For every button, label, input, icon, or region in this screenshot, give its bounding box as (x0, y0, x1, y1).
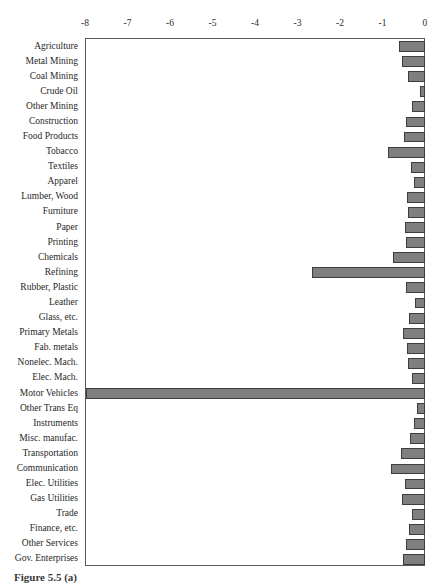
category-label: Communication (17, 463, 78, 473)
x-tick-label: -1 (378, 18, 386, 28)
category-label: Chemicals (38, 252, 78, 262)
bar (408, 71, 425, 82)
bar (415, 298, 425, 309)
bar (402, 56, 425, 67)
bar (411, 162, 425, 173)
x-tick-label: 0 (423, 18, 428, 28)
category-label: Furniture (43, 206, 78, 216)
x-tick-label: -2 (336, 18, 344, 28)
x-tick-label: -6 (166, 18, 174, 28)
category-label: Crude Oil (40, 86, 78, 96)
bar (414, 418, 425, 429)
bar (402, 494, 425, 505)
bar (414, 177, 425, 188)
x-tick-label: -7 (123, 18, 131, 28)
bar (406, 282, 425, 293)
x-tick-label: -8 (81, 18, 89, 28)
category-label: Paper (56, 222, 78, 232)
x-axis-tick-labels: -8-7-6-5-4-3-2-10 (0, 18, 446, 34)
category-label: Nonelec. Mach. (18, 357, 78, 367)
category-label: Coal Mining (30, 71, 78, 81)
category-label: Other Services (22, 538, 78, 548)
category-label: Other Trans Eq (20, 403, 78, 413)
category-label: Refining (45, 267, 78, 277)
bar (406, 117, 425, 128)
bar (404, 132, 425, 143)
bar (407, 343, 425, 354)
bar (412, 509, 425, 520)
category-label: Printing (47, 237, 78, 247)
category-label: Agriculture (34, 41, 78, 51)
figure-container: -8-7-6-5-4-3-2-10 AgricultureMetal Minin… (0, 0, 446, 585)
category-label: Motor Vehicles (20, 388, 78, 398)
bar (405, 479, 425, 490)
bar (409, 313, 425, 324)
bar (401, 448, 425, 459)
category-label: Misc. manufac. (19, 433, 78, 443)
category-label: Transportation (22, 448, 78, 458)
category-label: Food Products (23, 131, 78, 141)
category-label: Other Mining (26, 101, 78, 111)
category-label: Tobacco (46, 146, 78, 156)
category-label: Lumber, Wood (21, 191, 78, 201)
bar (388, 147, 425, 158)
category-label: Metal Mining (25, 56, 78, 66)
plot-area (85, 38, 425, 566)
x-tick-label: -4 (251, 18, 259, 28)
category-label: Textiles (48, 161, 78, 171)
category-label: Fab. metals (34, 342, 78, 352)
category-label: Elec. Utilities (26, 478, 78, 488)
bar (406, 237, 425, 248)
category-label: Instruments (33, 418, 78, 428)
category-label: Finance, etc. (30, 523, 78, 533)
category-label: Primary Metals (19, 327, 78, 337)
bar (405, 222, 425, 233)
bar (403, 328, 425, 339)
category-label: Elec. Mach. (32, 372, 78, 382)
category-label: Gov. Enterprises (15, 553, 78, 563)
category-label: Rubber, Plastic (20, 282, 78, 292)
category-label: Trade (56, 508, 78, 518)
bar (409, 524, 425, 535)
bar (412, 101, 425, 112)
bar (391, 464, 425, 475)
category-label: Leather (49, 297, 78, 307)
bar (410, 433, 425, 444)
bar (399, 41, 425, 52)
bar (408, 358, 425, 369)
bar (86, 388, 425, 399)
bar (408, 207, 425, 218)
category-label: Apparel (47, 176, 78, 186)
bar (406, 539, 425, 550)
x-tick-label: -3 (293, 18, 301, 28)
bar (412, 373, 425, 384)
figure-caption: Figure 5.5 (a) (14, 571, 77, 583)
bar (403, 554, 425, 565)
category-label: Construction (29, 116, 78, 126)
bar (417, 403, 425, 414)
category-label: Gas Utilities (30, 493, 78, 503)
bar (420, 86, 425, 97)
category-label: Glass, etc. (39, 312, 78, 322)
x-tick-label: -5 (208, 18, 216, 28)
bar (312, 267, 425, 278)
bar (407, 192, 425, 203)
bar (393, 252, 425, 263)
